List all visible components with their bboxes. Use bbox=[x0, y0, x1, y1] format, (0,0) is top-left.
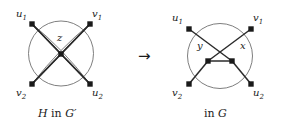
label-v1-right: v1 bbox=[253, 13, 263, 26]
label-v2-right: v2 bbox=[172, 88, 182, 101]
vertex-v2-right bbox=[186, 81, 191, 86]
vertex-u2-left bbox=[87, 81, 92, 86]
right-caption-g: G bbox=[218, 107, 227, 120]
left-graph-caption: H in G′ bbox=[38, 108, 77, 119]
label-u2-left: u2 bbox=[92, 88, 103, 101]
vertex-u2-right bbox=[248, 81, 253, 86]
right-graph bbox=[186, 24, 253, 89]
label-y-right: y bbox=[197, 41, 203, 51]
left-graph bbox=[29, 21, 94, 87]
label-z-left: z bbox=[57, 33, 62, 43]
edge-u1-x bbox=[189, 29, 232, 61]
vertex-u1-left bbox=[29, 21, 34, 26]
label-u1-left: u1 bbox=[16, 9, 27, 22]
label-u2-right: u2 bbox=[253, 88, 264, 101]
vertex-u1-right bbox=[186, 26, 191, 31]
left-caption-in: in bbox=[48, 107, 66, 120]
vertex-v1-left bbox=[87, 21, 92, 26]
vertex-v1-right bbox=[248, 26, 253, 31]
vertex-x-right bbox=[229, 58, 234, 63]
label-x-right: x bbox=[240, 41, 246, 51]
label-v2-left: v2 bbox=[16, 88, 26, 101]
vertex-z-left bbox=[58, 51, 63, 56]
label-u1-right: u1 bbox=[172, 13, 183, 26]
left-caption-gprime: G′ bbox=[65, 107, 76, 120]
label-v1-left: v1 bbox=[92, 9, 102, 22]
transformation-arrow-icon: → bbox=[138, 49, 151, 64]
left-caption-h: H bbox=[38, 107, 48, 120]
vertex-y-right bbox=[205, 58, 210, 63]
vertex-v2-left bbox=[29, 81, 34, 86]
right-graph-caption: in G bbox=[204, 108, 227, 119]
right-caption-in: in bbox=[204, 107, 218, 120]
right-graph-outer-circle bbox=[188, 24, 253, 89]
